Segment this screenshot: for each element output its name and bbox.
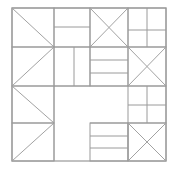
quilt-figure [0, 0, 176, 170]
quilt-pattern-svg [0, 0, 176, 170]
